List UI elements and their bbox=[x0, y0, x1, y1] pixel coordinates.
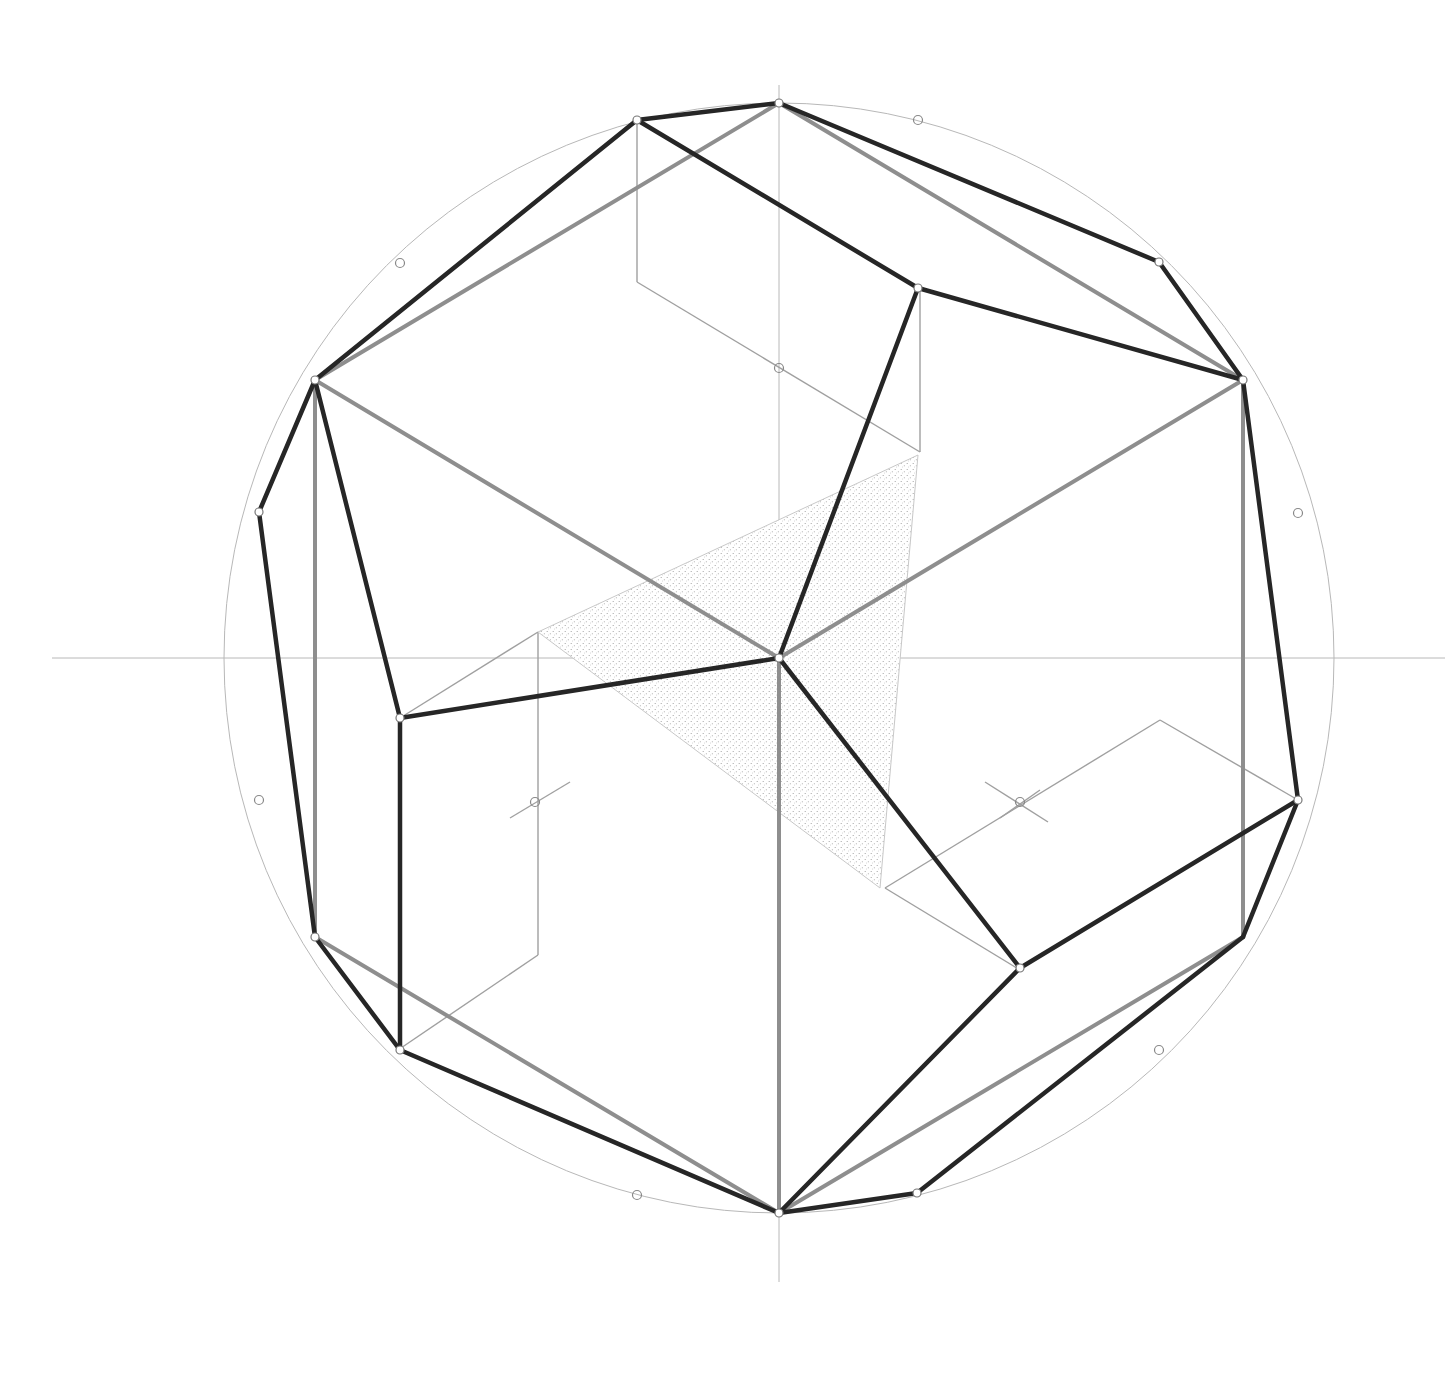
vertex-marker bbox=[255, 508, 263, 516]
circle-division-marker bbox=[396, 259, 405, 268]
hidden-edge bbox=[779, 103, 1243, 380]
vertex-marker bbox=[913, 1189, 921, 1197]
construction-line bbox=[1160, 720, 1298, 800]
visible-edge bbox=[315, 120, 637, 380]
vertex-marker bbox=[311, 376, 319, 384]
circle-division-marker bbox=[1294, 509, 1303, 518]
vertex-marker bbox=[914, 284, 922, 292]
visible-edge bbox=[1243, 380, 1298, 800]
construction-line bbox=[885, 720, 1160, 888]
vertex-marker bbox=[396, 714, 404, 722]
stippled-triangle bbox=[538, 455, 918, 888]
circle-division-marker bbox=[255, 796, 264, 805]
vertex-marker bbox=[633, 116, 641, 124]
vertex-marker bbox=[775, 99, 783, 107]
hidden-edge bbox=[315, 103, 779, 380]
circle-division-marker bbox=[1155, 1046, 1164, 1055]
hidden-edge bbox=[315, 937, 779, 1213]
visible-edge bbox=[315, 380, 400, 718]
visible-edge bbox=[918, 288, 1243, 380]
vertex-marker bbox=[396, 1046, 404, 1054]
visible-edge bbox=[1020, 800, 1298, 968]
vertex-marker bbox=[1155, 258, 1163, 266]
visible-edge bbox=[259, 380, 315, 512]
visible-edge bbox=[400, 1050, 779, 1213]
vertex-marker bbox=[311, 933, 319, 941]
visible-edge bbox=[917, 937, 1243, 1193]
dodecahedron-construction-diagram bbox=[0, 0, 1448, 1379]
construction-line bbox=[398, 955, 538, 1050]
vertex-marker bbox=[1239, 376, 1247, 384]
construction-line bbox=[510, 782, 570, 818]
vertex-marker bbox=[1294, 796, 1302, 804]
hidden-edge bbox=[315, 380, 779, 658]
shaded-triangle bbox=[538, 455, 918, 888]
vertex-marker bbox=[775, 654, 783, 662]
vertex-marker bbox=[775, 1209, 783, 1217]
visible-edge bbox=[315, 937, 400, 1050]
construction-line bbox=[885, 888, 1020, 970]
construction-line bbox=[985, 782, 1048, 822]
vertex-marker bbox=[1016, 964, 1024, 972]
visible-edge bbox=[1159, 262, 1243, 380]
